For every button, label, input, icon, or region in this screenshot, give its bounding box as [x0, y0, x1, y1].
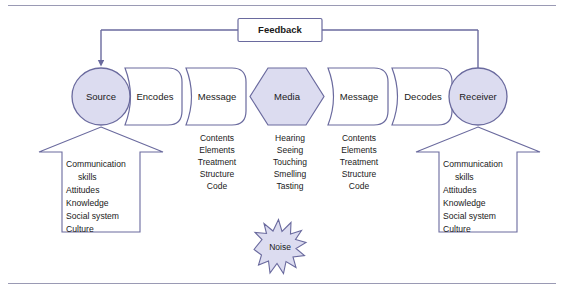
source-factor-line-1: Communication [66, 159, 126, 169]
communication-model-diagram: Feedback Encodes Message Media Message D… [0, 0, 564, 294]
media-sense-1: Hearing [275, 133, 305, 143]
media-sense-2: Seeing [277, 145, 304, 155]
flow-node-message-2[interactable]: Message [328, 68, 388, 125]
media-sense-5: Tasting [277, 181, 304, 191]
receiver-factor-line-5: Social system [443, 211, 496, 221]
message-2-attribute-5: Code [349, 181, 370, 191]
flow-node-encodes-label: Encodes [137, 91, 174, 102]
flow-node-receiver-label: Receiver [459, 91, 497, 102]
receiver-factor-line-4: Knowledge [443, 198, 486, 208]
receiver-factor-line-1: Communication [443, 159, 503, 169]
flow-node-message-1-label: Message [198, 91, 237, 102]
message-2-attribute-2: Elements [341, 145, 376, 155]
message-2-attribute-4: Structure [342, 169, 377, 179]
source-factor-line-2: skills [78, 172, 97, 182]
source-factor-line-5: Social system [66, 211, 119, 221]
flow-node-media-label: Media [274, 91, 301, 102]
receiver-factor-line-3: Attitudes [443, 185, 476, 195]
media-sense-3: Touching [273, 157, 307, 167]
feedback-box[interactable]: Feedback [238, 19, 322, 42]
flow-node-receiver[interactable]: Receiver [449, 68, 507, 125]
message-1-attribute-3: Treatment [198, 157, 237, 167]
flow-node-decodes-label: Decodes [404, 91, 442, 102]
receiver-factor-line-2: skills [455, 172, 474, 182]
message-1-attribute-4: Structure [200, 169, 235, 179]
message-1-attribute-list: Contents Elements Treatment Structure Co… [198, 133, 237, 191]
media-senses-list: Hearing Seeing Touching Smelling Tasting [273, 133, 307, 191]
message-1-attribute-2: Elements [199, 145, 234, 155]
source-factors-arrow-box[interactable]: Communication skills Attitudes Knowledge… [39, 127, 163, 234]
source-factor-line-6: Culture [66, 224, 94, 234]
receiver-factor-line-6: Culture [443, 224, 471, 234]
noise-label: Noise [269, 242, 291, 252]
message-2-attribute-1: Contents [342, 133, 376, 143]
flow-node-message-1[interactable]: Message [186, 68, 246, 125]
noise-starburst[interactable]: Noise [254, 220, 306, 274]
message-1-attribute-1: Contents [200, 133, 234, 143]
flow-node-source[interactable]: Source [72, 68, 130, 125]
flow-node-encodes[interactable]: Encodes [125, 68, 182, 125]
source-factor-line-4: Knowledge [66, 198, 109, 208]
flow-node-source-label: Source [86, 91, 116, 102]
diagram-page: Feedback Encodes Message Media Message D… [0, 0, 564, 294]
message-2-attribute-list: Contents Elements Treatment Structure Co… [340, 133, 379, 191]
receiver-factors-arrow-box[interactable]: Communication skills Attitudes Knowledge… [416, 127, 540, 234]
flow-node-decodes[interactable]: Decodes [392, 68, 452, 125]
message-1-attribute-5: Code [207, 181, 228, 191]
message-2-attribute-3: Treatment [340, 157, 379, 167]
flow-node-media[interactable]: Media [250, 68, 324, 125]
flow-node-message-2-label: Message [340, 91, 379, 102]
source-factor-line-3: Attitudes [66, 185, 99, 195]
feedback-label: Feedback [258, 24, 303, 35]
media-sense-4: Smelling [274, 169, 307, 179]
